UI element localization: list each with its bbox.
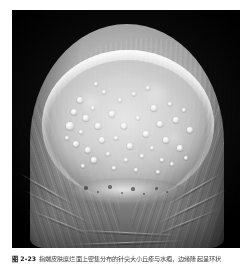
papule — [163, 137, 168, 142]
figure-caption: 图 2-23 指端皮肤糜烂面上密集分布的针尖大小丘疹与水疱，边缘隆起呈环状 — [12, 253, 244, 264]
crust-speck — [121, 192, 124, 195]
papule — [83, 115, 88, 120]
figure-block: 图 2-23 指端皮肤糜烂面上密集分布的针尖大小丘疹与水疱，边缘隆起呈环状 — [0, 0, 251, 265]
crust-speck — [84, 186, 87, 189]
crust-speck — [143, 193, 145, 195]
papule — [157, 121, 163, 127]
papule — [95, 123, 100, 128]
crust-speck — [166, 191, 168, 193]
papule — [173, 117, 179, 123]
papule — [121, 123, 127, 129]
papule — [109, 111, 115, 117]
papule — [66, 122, 73, 129]
papule — [71, 109, 77, 115]
papule — [99, 137, 105, 143]
clinical-photograph — [12, 10, 240, 248]
papule — [187, 127, 193, 133]
papule — [127, 143, 132, 148]
papule — [85, 147, 91, 153]
papule — [91, 157, 96, 162]
papule — [143, 131, 149, 137]
papule — [177, 145, 182, 150]
papule — [151, 105, 156, 110]
papule — [134, 168, 138, 172]
figure-number: 图 2-23 — [12, 254, 36, 263]
crust-speck — [131, 187, 134, 190]
papule — [94, 82, 98, 86]
lesion-crust-zone — [70, 178, 188, 204]
figure-caption-text: 指端皮肤糜烂面上密集分布的针尖大小丘疹与水疱，边缘隆起呈环状 — [39, 254, 221, 263]
crust-speck — [97, 191, 99, 193]
crust-speck — [108, 185, 112, 189]
crust-speck — [155, 187, 158, 190]
